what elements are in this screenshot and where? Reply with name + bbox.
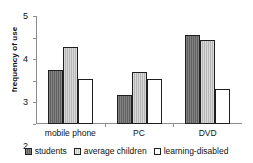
legend-swatch-icon bbox=[74, 148, 81, 155]
y-tick-label: 3 bbox=[23, 98, 28, 107]
y-tick-mark: 0 bbox=[33, 124, 36, 125]
y-tick-label: 4 bbox=[23, 55, 28, 64]
y-tick-mark: 3 bbox=[33, 59, 36, 60]
legend-label: learning-disabled bbox=[164, 146, 229, 156]
bar-group bbox=[117, 16, 162, 124]
bar bbox=[147, 79, 162, 124]
bar bbox=[185, 35, 200, 124]
x-tick-mark bbox=[173, 124, 174, 127]
bar bbox=[132, 72, 147, 124]
bar-chart-figure: frequency of use 543210 mobile phonePCDV… bbox=[0, 0, 253, 163]
y-tick-label: 5 bbox=[23, 12, 28, 21]
x-category-label: mobile phone bbox=[45, 128, 96, 138]
bar bbox=[48, 70, 63, 124]
x-category-label: DVD bbox=[199, 128, 217, 138]
x-tick-mark bbox=[105, 124, 106, 127]
legend-label: students bbox=[35, 146, 67, 156]
y-axis-title: frequency of use bbox=[10, 15, 19, 105]
plot-area: 543210 bbox=[36, 16, 242, 124]
chart-legend: studentsaverage childrenlearning-disable… bbox=[0, 146, 253, 156]
bar bbox=[215, 89, 230, 124]
bar bbox=[63, 47, 78, 124]
bar bbox=[200, 40, 215, 124]
legend-item: learning-disabled bbox=[154, 146, 229, 156]
legend-swatch-icon bbox=[25, 148, 32, 155]
bar bbox=[78, 79, 93, 124]
bar-group bbox=[185, 16, 230, 124]
bar-group bbox=[48, 16, 93, 124]
legend-swatch-icon bbox=[154, 148, 161, 155]
legend-item: average children bbox=[74, 146, 147, 156]
legend-label: average children bbox=[84, 146, 147, 156]
y-tick-mark: 2 bbox=[33, 81, 36, 82]
y-tick-mark: 1 bbox=[33, 102, 36, 103]
y-tick-mark: 4 bbox=[33, 38, 36, 39]
legend-item: students bbox=[25, 146, 67, 156]
x-category-label: PC bbox=[133, 128, 145, 138]
y-axis-line bbox=[36, 16, 37, 124]
x-axis-category-labels: mobile phonePCDVD bbox=[36, 128, 242, 140]
y-tick-mark: 5 bbox=[33, 16, 36, 17]
bar bbox=[117, 95, 132, 124]
